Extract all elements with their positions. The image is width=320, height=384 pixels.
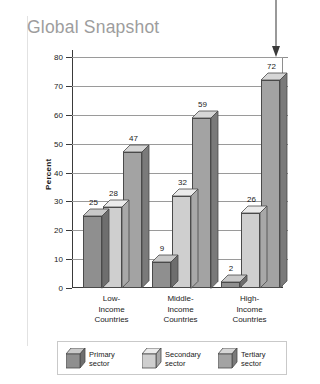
bar-side-face (142, 152, 149, 288)
gridline (72, 173, 283, 174)
legend-swatch-cube-icon (218, 348, 238, 369)
bar-side-face (102, 216, 109, 288)
bar-value-label: 47 (129, 134, 138, 143)
legend-label-line2: sector (241, 359, 266, 368)
bar: 2 (221, 282, 240, 288)
bar-top-face (83, 209, 102, 216)
y-axis-tick-label: 0 (59, 284, 63, 293)
bar-value-label: 9 (160, 244, 164, 253)
legend-label-line2: sector (165, 359, 201, 368)
y-axis-tick-label: 50 (54, 139, 63, 148)
bar-side-face (260, 213, 267, 288)
bar-side-face (211, 118, 218, 288)
bar-value-label: 2 (229, 264, 233, 273)
category-label-line: Countries (141, 315, 221, 326)
category-label-line: High- (210, 294, 290, 305)
y-axis-tick (66, 57, 72, 58)
gridline (72, 115, 283, 116)
bar-value-label: 25 (89, 198, 98, 207)
bar-side-face (191, 196, 198, 288)
category-label-line: Low- (72, 294, 152, 305)
chart-title: Global Snapshot (27, 17, 159, 38)
y-axis-tick (66, 259, 72, 260)
category-label-line: Countries (72, 315, 152, 326)
bar-value-label: 32 (178, 178, 187, 187)
category-label-line: Income (72, 305, 152, 316)
gridline-tick-right (283, 57, 288, 58)
category-label-line: Countries (210, 315, 290, 326)
page-margin-rule (27, 16, 28, 346)
legend-swatch-cube-icon (66, 348, 86, 369)
y-axis-tick (66, 288, 72, 289)
bar: 9 (152, 262, 171, 288)
callout-arrow-icon (270, 0, 282, 58)
legend-label: Primarysector (89, 350, 115, 368)
y-axis-tick (66, 144, 72, 145)
y-axis-tick (66, 86, 72, 87)
bar-value-label: 26 (247, 195, 256, 204)
bar-side-face (171, 262, 178, 288)
category-label: High-IncomeCountries (210, 294, 290, 326)
bar-top-face (103, 200, 122, 207)
y-axis-tick-label: 70 (54, 81, 63, 90)
y-axis-tick-label: 30 (54, 197, 63, 206)
bar-top-face (261, 73, 280, 80)
plot-area: 01020304050607080 2528479325922672 (72, 57, 283, 288)
category-label: Low-IncomeCountries (72, 294, 152, 326)
category-label-line: Middle- (141, 294, 221, 305)
legend-item[interactable]: Tertiarysector (218, 348, 266, 369)
bar-front-face (221, 282, 240, 288)
y-axis-tick (66, 115, 72, 116)
legend-label-line1: Tertiary (241, 350, 266, 359)
legend-label-line1: Primary (89, 350, 115, 359)
bar-front-face (83, 216, 102, 288)
legend-label-line1: Secondary (165, 350, 201, 359)
legend-label: Secondarysector (165, 350, 201, 368)
bar-top-face (123, 145, 142, 152)
legend-item[interactable]: Primarysector (66, 348, 115, 369)
legend-label: Tertiarysector (241, 350, 266, 368)
y-axis-tick-label: 20 (54, 226, 63, 235)
y-axis-tick-label: 10 (54, 255, 63, 264)
bar-top-face (221, 275, 240, 282)
y-axis-tick (66, 230, 72, 231)
gridline (72, 86, 283, 87)
bar-top-face (172, 189, 191, 196)
gridline (72, 144, 283, 145)
legend-item[interactable]: Secondarysector (142, 348, 201, 369)
bar-side-face (280, 80, 287, 288)
bar: 25 (83, 216, 102, 288)
y-axis-tick-label: 60 (54, 110, 63, 119)
bar-side-face (240, 282, 247, 288)
y-axis-tick-label: 80 (54, 53, 63, 62)
bar-side-face (122, 207, 129, 288)
y-axis-tick-label: 40 (54, 168, 63, 177)
bar-top-face (241, 206, 260, 213)
bar-top-face (192, 111, 211, 118)
chart-legend: PrimarysectorSecondarysectorTertiarysect… (57, 341, 287, 375)
gridline (72, 57, 283, 58)
bar-front-face (152, 262, 171, 288)
legend-swatch-cube-icon (142, 348, 162, 369)
bar-value-label: 72 (267, 62, 276, 71)
y-axis-tick (66, 201, 72, 202)
bar-value-label: 28 (109, 189, 118, 198)
y-axis-title: Percent (44, 159, 53, 190)
bar-top-face (152, 255, 171, 262)
y-axis-tick (66, 173, 72, 174)
category-label: Middle-IncomeCountries (141, 294, 221, 326)
legend-label-line2: sector (89, 359, 115, 368)
bar-value-label: 59 (198, 100, 207, 109)
category-label-line: Income (210, 305, 290, 316)
category-label-line: Income (141, 305, 221, 316)
